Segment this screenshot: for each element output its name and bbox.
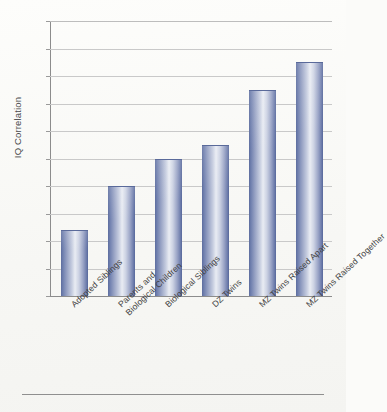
bar xyxy=(108,186,135,296)
gridline xyxy=(50,241,332,242)
bar xyxy=(249,90,276,296)
footer-divider xyxy=(22,394,324,395)
gridline xyxy=(50,104,332,105)
y-axis-tick xyxy=(46,269,50,270)
gridline xyxy=(50,214,332,215)
gridline xyxy=(50,269,332,270)
y-axis-tick xyxy=(46,49,50,50)
y-axis-tick xyxy=(46,296,50,297)
plot-area: 1.00.90.80.70.60.50.40.30.20.10.0 xyxy=(50,21,332,296)
bar xyxy=(61,230,88,296)
y-axis-tick xyxy=(46,214,50,215)
gridline xyxy=(50,76,332,77)
gridline xyxy=(50,49,332,50)
y-axis-tick xyxy=(46,104,50,105)
y-axis-tick xyxy=(46,76,50,77)
y-axis-tick xyxy=(46,186,50,187)
gridline xyxy=(50,159,332,160)
y-axis-tick xyxy=(46,159,50,160)
y-axis-title: IQ Correlation xyxy=(12,80,23,176)
gridline xyxy=(50,21,332,22)
y-axis-tick xyxy=(46,131,50,132)
x-axis-line xyxy=(50,296,332,297)
gridline xyxy=(50,131,332,132)
y-axis-tick xyxy=(46,241,50,242)
gridline xyxy=(50,186,332,187)
y-axis-tick xyxy=(46,21,50,22)
